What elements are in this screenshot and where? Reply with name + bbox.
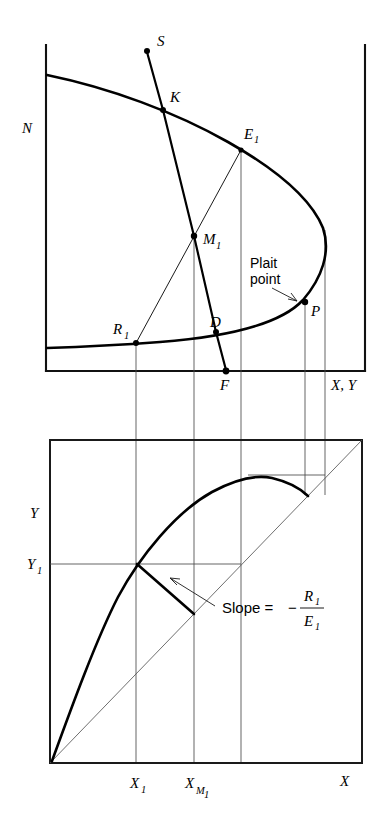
point-label-R1: R 1 (112, 321, 129, 341)
point-label-R1-base: R (112, 321, 122, 337)
axis-label-N: N (21, 120, 33, 136)
slope-denominator-subscript: 1 (315, 621, 320, 632)
point-label-E1-base: E (243, 126, 253, 142)
point-label-K: K (169, 89, 181, 105)
point-label-R1-subscript: 1 (124, 330, 129, 341)
point-label-M1-base: M (202, 231, 217, 247)
point-K (160, 107, 166, 113)
extraction-diagram-svg: N X, Y S K E 1 M 1 P R 1 D F Plait point (0, 0, 389, 835)
lower-panel: Y Y 1 X 1 X M 1 X Slope = − R 1 (27, 440, 362, 800)
point-M1 (191, 233, 197, 239)
axis-tick-label-XM1-base: X (184, 775, 195, 791)
point-E1 (238, 147, 243, 152)
slope-leader-line (170, 578, 215, 606)
slope-annotation-minus: − (288, 599, 297, 616)
slope-numerator-subscript: 1 (315, 596, 320, 607)
axis-tick-label-X1: X 1 (129, 775, 146, 795)
point-label-D: D (209, 314, 221, 330)
tie-line-R1-E1 (136, 150, 241, 343)
axis-tick-label-XM1: X M 1 (184, 775, 209, 800)
point-R1 (133, 340, 139, 346)
slope-annotation: Slope = − R 1 E 1 (222, 588, 324, 632)
point-label-S: S (157, 33, 165, 49)
axis-tick-label-Y1: Y 1 (27, 556, 42, 576)
axis-tick-label-X1-base: X (129, 775, 140, 791)
figure-root: N X, Y S K E 1 M 1 P R 1 D F Plait point (0, 0, 389, 835)
axis-tick-label-X1-subscript: 1 (141, 784, 146, 795)
axis-label-XY: X, Y (330, 377, 358, 393)
plait-point-annotation: Plait point (250, 255, 280, 287)
binodal-curve (47, 75, 326, 348)
equilibrium-curve (52, 477, 308, 761)
slope-denominator: E (303, 613, 313, 629)
point-F (223, 368, 230, 375)
axis-tick-label-Y1-subscript: 1 (37, 565, 42, 576)
point-S (144, 48, 150, 54)
point-label-E1-subscript: 1 (254, 134, 259, 145)
point-label-E1: E 1 (243, 126, 259, 145)
slope-fraction: R 1 E 1 (300, 588, 324, 632)
slope-segment (137, 564, 194, 614)
slope-annotation-text: Slope = (222, 599, 274, 616)
point-label-M1-subscript: 1 (216, 240, 221, 251)
point-label-M1: M 1 (202, 231, 221, 251)
axis-label-X: X (339, 773, 350, 789)
upper-panel: N X, Y S K E 1 M 1 P R 1 D F Plait point (21, 33, 365, 763)
axis-tick-label-XM1-subscript2: 1 (204, 789, 209, 800)
point-label-P: P (310, 303, 320, 319)
plait-point-leader (272, 288, 297, 301)
axis-label-Y: Y (30, 505, 40, 521)
plait-point-line1: Plait (250, 255, 277, 271)
projection-lines (136, 150, 325, 763)
slope-numerator: R (303, 588, 313, 604)
axis-tick-label-Y1-base: Y (27, 556, 37, 572)
plait-point-line2: point (250, 271, 280, 287)
point-P (302, 299, 308, 305)
point-label-F: F (219, 377, 230, 393)
